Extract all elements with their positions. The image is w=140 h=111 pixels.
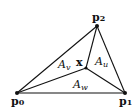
label-area-u: Au <box>94 55 108 69</box>
label-x: x <box>76 56 83 69</box>
barycentric-diagram: p2 p0 p1 x Av Au Aw <box>0 0 140 111</box>
label-area-w: Aw <box>72 78 88 92</box>
vertex-p2-dot <box>95 24 99 28</box>
label-area-v: Av <box>57 58 71 72</box>
label-p2: p2 <box>92 11 105 24</box>
point-x-dot <box>84 66 87 69</box>
label-p0: p0 <box>11 95 25 108</box>
segment-x-p1 <box>86 68 125 93</box>
label-p1: p1 <box>119 95 132 108</box>
